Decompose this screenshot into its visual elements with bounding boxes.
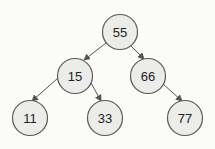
edge-15-11 — [32, 78, 58, 101]
tree-node-15: 15 — [58, 59, 93, 94]
node-label: 33 — [98, 111, 112, 126]
edge-15-33 — [91, 83, 101, 101]
node-label: 66 — [141, 69, 155, 84]
tree-node-33: 33 — [88, 101, 123, 136]
edge-55-15 — [84, 43, 106, 60]
tree-diagram: 55 15 66 11 33 77 — [0, 0, 215, 149]
node-label: 15 — [68, 69, 82, 84]
tree-node-55: 55 — [103, 15, 138, 50]
node-label: 11 — [23, 111, 37, 126]
tree-node-11: 11 — [13, 101, 48, 136]
edge-66-77 — [163, 84, 182, 101]
edge-55-66 — [131, 46, 144, 59]
node-label: 77 — [178, 111, 192, 126]
tree-node-66: 66 — [131, 59, 166, 94]
tree-node-77: 77 — [168, 101, 203, 136]
node-label: 55 — [113, 25, 127, 40]
